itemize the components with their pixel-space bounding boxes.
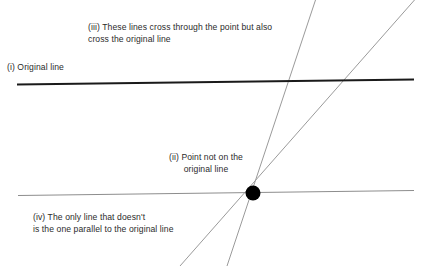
parallel-line (18, 191, 414, 196)
parallel-postulate-diagram: (i) Original line (iii) These lines cros… (0, 0, 424, 266)
label-crossing-lines: (iii) These lines cross through the poin… (88, 22, 338, 45)
label-point-not-on-line: (ii) Point not on the original line (148, 152, 264, 175)
label-parallel-line-note: (iv) The only line that doesn't is the o… (33, 212, 243, 235)
point-marker (246, 186, 261, 201)
original-line (17, 80, 414, 85)
label-original-line: (i) Original line (7, 62, 64, 74)
